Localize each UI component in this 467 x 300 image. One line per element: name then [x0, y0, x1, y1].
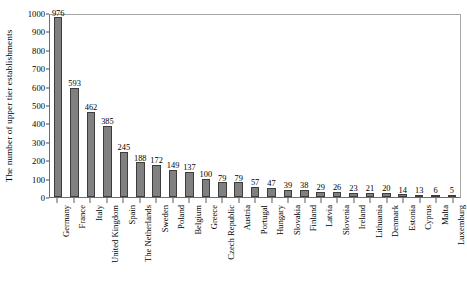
bar-value-label: 245	[118, 144, 131, 152]
bar: 593	[70, 88, 79, 197]
bar: 100	[202, 179, 211, 197]
bar-category: 188	[132, 15, 148, 197]
bar: 26	[333, 192, 342, 197]
bar-value-label: 79	[234, 175, 242, 183]
bar: 79	[218, 182, 227, 197]
bar: 14	[398, 194, 407, 197]
bar-category: 26	[329, 15, 345, 197]
x-axis-tick-labels: GermanyFranceItalyUnited KingdomSpainThe…	[49, 203, 461, 298]
bar-category: 245	[116, 15, 132, 197]
bar-category: 29	[313, 15, 329, 197]
x-axis-tick-label: Czech Republic	[214, 203, 230, 298]
bar-value-label: 172	[150, 157, 163, 165]
bar-value-label: 100	[200, 171, 213, 179]
bar: 6	[431, 195, 440, 197]
bar: 13	[415, 195, 424, 197]
bar: 38	[300, 190, 309, 197]
x-axis-tick-label: Denmark	[379, 203, 395, 298]
bar-value-label: 14	[399, 187, 407, 195]
bar-category: 385	[99, 15, 115, 197]
y-axis-title-text: The number of upper tier establishments	[4, 30, 14, 183]
x-axis-tick-label: France	[65, 203, 81, 298]
x-axis-tick-label: The Netherlands	[131, 203, 147, 298]
bar-value-label: 26	[333, 184, 341, 192]
x-axis-tick-label: Malta	[428, 203, 444, 298]
bar: 149	[169, 170, 178, 197]
bar-value-label: 976	[52, 10, 65, 18]
x-axis-tick-label: Poland	[164, 203, 180, 298]
x-axis-tick-label: Luxemburg	[445, 203, 461, 298]
bar-category: 6	[427, 15, 443, 197]
bar-value-label: 47	[267, 180, 275, 188]
bar-category: 172	[148, 15, 164, 197]
bar-value-label: 6	[433, 187, 437, 195]
bar-category: 100	[198, 15, 214, 197]
y-axis-tick-label: 200	[32, 156, 45, 166]
bar-value-label: 462	[85, 104, 98, 112]
bar-category: 47	[263, 15, 279, 197]
bar: 172	[152, 165, 161, 197]
bar-category: 20	[378, 15, 394, 197]
x-axis-tick-label: Ireland	[346, 203, 362, 298]
bar-category: 14	[395, 15, 411, 197]
bar-category: 39	[280, 15, 296, 197]
y-axis-tick-label: 0	[41, 193, 45, 203]
y-axis-tick-label: 500	[32, 101, 45, 111]
bar-category: 13	[411, 15, 427, 197]
bar-value-label: 39	[284, 182, 292, 190]
bar-category: 21	[362, 15, 378, 197]
bar-category: 149	[165, 15, 181, 197]
bar-category: 79	[230, 15, 246, 197]
bar: 462	[87, 112, 96, 197]
y-axis-tick-label: 400	[32, 119, 45, 129]
y-axis-tick-labels: 01002003004005006007008009001000	[18, 0, 49, 212]
bar: 5	[448, 195, 457, 197]
y-axis-tick-label: 700	[32, 64, 45, 74]
x-axis-tick-label: Sweden	[148, 203, 164, 298]
bar: 29	[316, 192, 325, 197]
bar: 47	[267, 188, 276, 197]
x-axis-tick-label: Lithuania	[362, 203, 378, 298]
bar-value-label: 38	[300, 182, 308, 190]
bar-value-label: 29	[317, 184, 325, 192]
bar-value-label: 13	[415, 187, 423, 195]
x-axis-tick-label: Belgium	[181, 203, 197, 298]
bar-category: 976	[50, 15, 66, 197]
y-axis-tick-label: 300	[32, 138, 45, 148]
bar-value-label: 20	[382, 185, 390, 193]
y-axis-title: The number of upper tier establishments	[0, 0, 18, 212]
plot-area: 9765934623852451881721491371007979574739…	[49, 14, 461, 198]
y-axis-tick-label: 1000	[28, 9, 45, 19]
bar-category: 38	[296, 15, 312, 197]
bar-category: 23	[345, 15, 361, 197]
bar: 23	[349, 193, 358, 197]
y-axis-tick-label: 900	[32, 27, 45, 37]
y-axis-tick-label: 800	[32, 46, 45, 56]
bar-series: 9765934623852451881721491371007979574739…	[50, 15, 460, 197]
bar: 39	[284, 190, 293, 197]
y-axis-tick-label: 600	[32, 83, 45, 93]
bar-value-label: 21	[366, 185, 374, 193]
x-axis-tick-label: Slovakia	[280, 203, 296, 298]
x-axis-tick-label: Finland	[296, 203, 312, 298]
bar: 20	[382, 193, 391, 197]
bar-category: 5	[444, 15, 460, 197]
bar: 385	[103, 126, 112, 197]
bar-category: 593	[66, 15, 82, 197]
bar-chart-figure: The number of upper tier establishments …	[0, 0, 467, 300]
x-axis-tick-label-text: Luxemburg	[456, 205, 466, 245]
bar-value-label: 5	[450, 187, 454, 195]
x-axis-tick-label: Austria	[230, 203, 246, 298]
x-axis-tick-label: United Kingdom	[98, 203, 114, 298]
x-axis-tick-label: Cyprus	[412, 203, 428, 298]
x-axis-tick-label: Slovenia	[329, 203, 345, 298]
bar-value-label: 188	[134, 155, 147, 163]
x-axis-tick-label: Portugal	[247, 203, 263, 298]
bar-value-label: 79	[218, 175, 226, 183]
bar-category: 57	[247, 15, 263, 197]
bar: 976	[54, 17, 63, 197]
bar: 79	[234, 182, 243, 197]
bar-value-label: 593	[68, 80, 81, 88]
x-axis-tick-label: Spain	[115, 203, 131, 298]
x-axis-tick-label: Estonia	[395, 203, 411, 298]
